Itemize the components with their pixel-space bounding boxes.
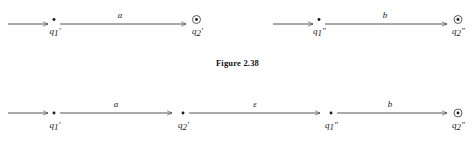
transition-label-b-r1m2: b [383,10,388,20]
figure-2-38: q1′ a q2′ q1″ b q2″ [0,0,475,144]
row-2-machine-concat: q1′ a q2′ ε q1″ b q2″ [8,99,465,132]
state-node-q1-dprime-r2[interactable] [330,112,333,115]
state-diagram-canvas: q1′ a q2′ q1″ b q2″ [0,0,475,144]
state-node-q1-prime-r2[interactable] [53,112,56,115]
state-label-q1-dprime-r2: q1″ [325,120,338,132]
state-node-q1-dprime-r1m2[interactable] [318,18,321,21]
transition-label-a-r2: a [114,99,119,109]
state-label-q1-prime-r1m1: q1′ [50,26,62,38]
state-label-q2-dprime-r2: q2″ [452,120,465,132]
state-label-q2-dprime-r1m2: q2″ [452,26,465,38]
row-1-machine-b: q1″ b q2″ [273,10,465,38]
state-label-q1-prime-r2: q1′ [50,120,62,132]
state-node-q2-dprime-r1m2[interactable] [457,18,460,21]
state-node-q2-prime-r2[interactable] [182,112,185,115]
transition-label-b-r2: b [388,99,393,109]
row-1-machine-a: q1′ a q2′ [8,10,204,38]
state-node-q1-prime-r1m1[interactable] [53,18,56,21]
state-label-q2-prime-r1m1: q2′ [192,26,204,38]
transition-label-a-r1m1: a [118,10,123,20]
state-label-q2-prime-r2: q2′ [178,120,190,132]
state-node-q2-dprime-r2[interactable] [457,112,460,115]
state-label-q1-dprime-r1m2: q1″ [313,26,326,38]
transition-label-epsilon-r2: ε [253,99,257,109]
state-node-q2-prime-r1m1[interactable] [195,18,198,21]
figure-caption: Figure 2.38 [0,58,475,68]
